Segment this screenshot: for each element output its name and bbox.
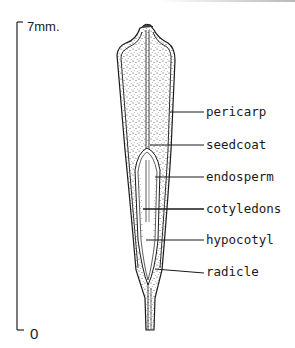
scale-top-label: 7mm. [27,20,60,33]
scale-bar [17,22,24,330]
label-pericarp: pericarp [206,106,266,119]
label-hypocotyl: hypocotyl [206,234,274,247]
label-endosperm: endosperm [206,171,274,184]
label-cotyledons: cotyledons [206,203,281,216]
label-radicle: radicle [206,266,259,279]
scale-bottom-label: 0 [30,326,38,341]
label-seedcoat: seedcoat [206,139,266,152]
